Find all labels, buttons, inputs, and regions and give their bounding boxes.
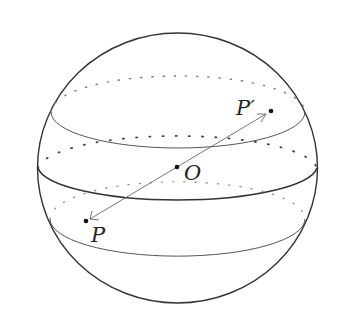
- upper-circle-back: [51, 76, 305, 112]
- label-o: O: [184, 161, 201, 185]
- vector-o-to-p: [90, 167, 177, 219]
- point-p-prime-dot: [269, 109, 274, 114]
- vector-o-to-p-prime: [177, 114, 266, 167]
- equator-front: [38, 168, 317, 200]
- point-o-dot: [175, 165, 180, 170]
- upper-circle-front: [51, 112, 305, 148]
- label-p: P: [90, 223, 106, 247]
- label-p-prime: P′: [235, 96, 255, 120]
- sphere-diagram: O P P′: [0, 0, 347, 334]
- equator-back: [38, 136, 317, 168]
- point-p-dot: [84, 219, 89, 224]
- lower-circle-front: [50, 219, 305, 256]
